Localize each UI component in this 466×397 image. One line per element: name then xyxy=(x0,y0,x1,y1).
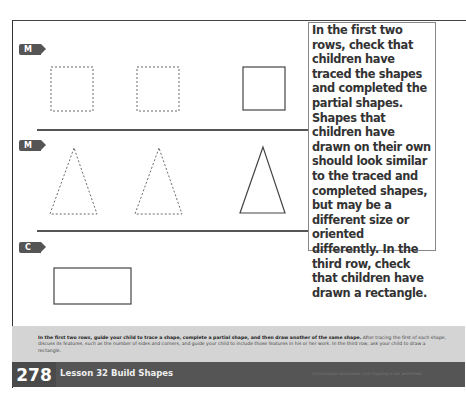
instruction-bold: In the first two rows, guide your child … xyxy=(38,335,361,340)
row-divider-2 xyxy=(37,230,319,232)
solid-rectangle xyxy=(53,267,133,306)
badge-label: M xyxy=(24,45,32,54)
row-divider-1 xyxy=(37,129,319,131)
solid-square xyxy=(242,66,287,112)
parent-instructions: In the first two rows, guide your child … xyxy=(38,335,448,354)
parent-instructions-band: In the first two rows, guide your child … xyxy=(12,326,465,362)
badge-label: M xyxy=(24,141,32,150)
dotted-triangle-2 xyxy=(133,146,185,218)
badge-m-row2: M xyxy=(19,140,41,151)
dotted-square-1 xyxy=(50,66,94,112)
page-footer-bar: 278 Lesson 32 Build Shapes ©Curriculum A… xyxy=(12,362,465,387)
solid-triangle xyxy=(238,145,288,217)
copyright-notice: ©Curriculum Associates, LLC Copying is n… xyxy=(312,371,422,376)
page-number: 278 xyxy=(12,362,56,387)
dotted-square-2 xyxy=(136,66,180,112)
badge-c-row3: C xyxy=(19,242,41,253)
lesson-title: Lesson 32 Build Shapes xyxy=(60,368,173,378)
teacher-annotation-box: In the first two rows, check that childr… xyxy=(308,22,436,251)
badge-m-row1: M xyxy=(19,44,41,55)
dotted-triangle-1 xyxy=(48,146,100,218)
badge-label: C xyxy=(25,243,31,252)
